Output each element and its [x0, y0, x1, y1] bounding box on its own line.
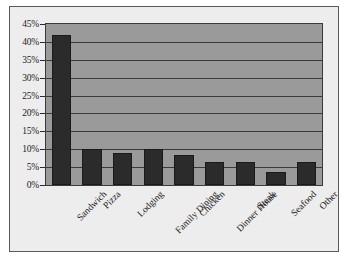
- y-tick-label: 5%: [27, 162, 39, 172]
- bar: [205, 162, 225, 185]
- bar-slot: [230, 24, 261, 185]
- y-tick-label: 40%: [22, 37, 39, 47]
- bar-slot: [46, 24, 77, 185]
- y-tick-label: 15%: [22, 126, 39, 136]
- y-tick-label: 20%: [22, 108, 39, 118]
- bar: [52, 35, 72, 185]
- bar: [113, 153, 133, 185]
- bar-slot: [169, 24, 200, 185]
- x-tick-label: Other: [318, 189, 340, 211]
- y-tick-label: 10%: [22, 144, 39, 154]
- y-axis: 0%5%10%15%20%25%30%35%40%45%: [10, 23, 45, 186]
- bar: [144, 149, 164, 185]
- y-tick-label: 0%: [27, 180, 39, 190]
- x-tick-label: Seafood: [289, 189, 318, 218]
- plot-area: [45, 23, 323, 186]
- y-tick-label: 30%: [22, 73, 39, 83]
- y-tick-label: 45%: [22, 19, 39, 29]
- y-tick-label: 25%: [22, 91, 39, 101]
- y-tick-label: 35%: [22, 55, 39, 65]
- bar-slot: [199, 24, 230, 185]
- bar: [266, 172, 286, 185]
- bar-chart-figure: 0%5%10%15%20%25%30%35%40%45% SandwichPiz…: [9, 6, 339, 252]
- bar: [82, 149, 102, 185]
- bar: [236, 162, 256, 185]
- bar-series: [46, 24, 322, 185]
- bar: [297, 162, 317, 185]
- bar-slot: [291, 24, 322, 185]
- bar: [174, 155, 194, 185]
- bar-slot: [107, 24, 138, 185]
- bar-slot: [261, 24, 292, 185]
- x-axis: SandwichPizzaLodgingFamily DiningChicken…: [45, 187, 323, 249]
- bar-slot: [138, 24, 169, 185]
- bar-slot: [77, 24, 108, 185]
- x-tick-label: Lodging: [135, 189, 165, 219]
